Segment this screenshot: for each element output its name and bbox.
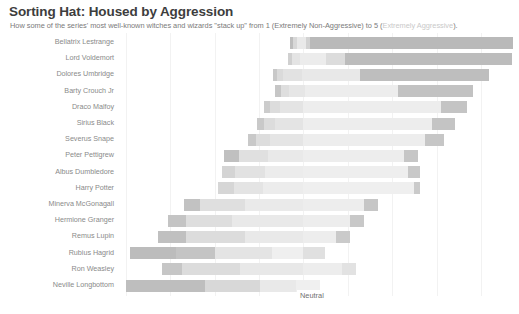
bar-segment-level-1[interactable] <box>222 166 235 178</box>
bar-segment-level-4[interactable] <box>303 134 425 146</box>
bar-segment-level-3[interactable] <box>289 85 305 97</box>
bar-segment-level-2[interactable] <box>281 85 289 97</box>
bar-segment-level-1[interactable] <box>184 199 200 211</box>
bar-segment-level-4[interactable] <box>303 199 364 211</box>
bar-segment-level-5[interactable] <box>408 166 420 178</box>
bar-segment-level-4[interactable] <box>305 85 398 97</box>
bar-segment-level-1[interactable] <box>130 247 176 259</box>
bar-segment-level-5[interactable] <box>360 69 489 81</box>
bar-segment-level-5[interactable] <box>404 150 418 162</box>
bar-segment-level-2[interactable] <box>234 182 263 194</box>
bar-segment-level-5[interactable] <box>350 215 364 227</box>
bar-stack[interactable] <box>0 85 519 97</box>
bar-segment-level-1[interactable] <box>257 118 264 130</box>
bar-stack[interactable] <box>0 263 519 275</box>
bar-segment-level-3[interactable] <box>245 199 303 211</box>
bar-stack[interactable] <box>0 280 519 292</box>
bar-row[interactable]: Bellatrix Lestrange <box>0 35 519 51</box>
bar-segment-level-4[interactable] <box>303 263 342 275</box>
bar-stack[interactable] <box>0 215 519 227</box>
bar-segment-level-4[interactable] <box>303 215 350 227</box>
bar-stack[interactable] <box>0 101 519 113</box>
bar-segment-level-2[interactable] <box>256 134 270 146</box>
bar-segment-level-4[interactable] <box>303 118 432 130</box>
bar-segment-level-3[interactable] <box>263 182 303 194</box>
bar-segment-level-3[interactable] <box>297 37 306 49</box>
bar-stack[interactable] <box>0 134 519 146</box>
bar-segment-level-4[interactable] <box>302 69 360 81</box>
bar-segment-level-2[interactable] <box>182 263 240 275</box>
bar-segment-level-2[interactable] <box>239 150 268 162</box>
bar-row[interactable]: Severus Snape <box>0 132 519 148</box>
bar-segment-level-2[interactable] <box>186 231 245 243</box>
bar-row[interactable]: Barty Crouch Jr <box>0 84 519 100</box>
bar-segment-level-5[interactable] <box>345 53 512 65</box>
bar-segment-level-5[interactable] <box>364 199 378 211</box>
bar-segment-level-1[interactable] <box>218 182 234 194</box>
bar-segment-level-4[interactable] <box>303 166 408 178</box>
bar-row[interactable]: Lord Voldemort <box>0 51 519 67</box>
bar-row[interactable]: Neville Longbottom <box>0 278 519 294</box>
bar-stack[interactable] <box>0 247 519 259</box>
bar-segment-level-4[interactable] <box>303 182 414 194</box>
bar-segment-level-4[interactable] <box>303 231 336 243</box>
bar-segment-level-5[interactable] <box>303 247 325 259</box>
bar-row[interactable]: Remus Lupin <box>0 229 519 245</box>
bar-segment-level-4[interactable] <box>272 247 303 259</box>
bar-segment-level-1[interactable] <box>168 215 186 227</box>
bar-row[interactable]: Sirius Black <box>0 116 519 132</box>
bar-segment-level-3[interactable] <box>268 150 303 162</box>
bar-stack[interactable] <box>0 166 519 178</box>
bar-stack[interactable] <box>0 69 519 81</box>
bar-segment-level-3[interactable] <box>245 231 303 243</box>
bar-segment-level-3[interactable] <box>270 134 303 146</box>
bar-segment-level-4[interactable] <box>303 150 404 162</box>
bar-stack[interactable] <box>0 182 519 194</box>
bar-row[interactable]: Hermione Granger <box>0 213 519 229</box>
bar-segment-level-3[interactable] <box>300 53 326 65</box>
bar-segment-level-3[interactable] <box>240 263 303 275</box>
bar-segment-level-2[interactable] <box>264 118 275 130</box>
bar-segment-level-5[interactable] <box>336 231 350 243</box>
bar-segment-level-5[interactable] <box>342 263 356 275</box>
bar-segment-level-2[interactable] <box>205 280 260 292</box>
bar-segment-level-1[interactable] <box>126 280 205 292</box>
bar-segment-level-5[interactable] <box>310 37 513 49</box>
bar-segment-level-3[interactable] <box>215 247 272 259</box>
bar-segment-level-3[interactable] <box>232 215 303 227</box>
bar-segment-level-4[interactable] <box>303 101 441 113</box>
bar-stack[interactable] <box>0 53 519 65</box>
bar-row[interactable]: Ron Weasley <box>0 262 519 278</box>
bar-row[interactable]: Harry Potter <box>0 181 519 197</box>
bar-row[interactable]: Albus Dumbledore <box>0 165 519 181</box>
bar-row[interactable]: Minerva McGonagall <box>0 197 519 213</box>
bar-stack[interactable] <box>0 231 519 243</box>
bar-segment-level-1[interactable] <box>248 134 256 146</box>
bar-segment-level-5[interactable] <box>414 182 420 194</box>
bar-segment-level-3[interactable] <box>275 118 303 130</box>
bar-segment-level-2[interactable] <box>186 215 232 227</box>
bar-segment-level-3[interactable] <box>280 101 303 113</box>
bar-stack[interactable] <box>0 199 519 211</box>
bar-segment-level-1[interactable] <box>224 150 239 162</box>
bar-segment-level-5[interactable] <box>432 118 455 130</box>
bar-row[interactable]: Rubius Hagrid <box>0 246 519 262</box>
bar-row[interactable]: Draco Malfoy <box>0 100 519 116</box>
bar-segment-level-1[interactable] <box>162 263 182 275</box>
bar-segment-level-4[interactable] <box>326 53 345 65</box>
bar-stack[interactable] <box>0 118 519 130</box>
bar-segment-level-2[interactable] <box>176 247 215 259</box>
bar-segment-level-1[interactable] <box>158 231 186 243</box>
bar-segment-level-3[interactable] <box>283 69 302 81</box>
bar-segment-level-2[interactable] <box>270 101 280 113</box>
bar-segment-level-3[interactable] <box>260 280 296 292</box>
bar-segment-level-5[interactable] <box>425 134 444 146</box>
bar-segment-level-3[interactable] <box>265 166 303 178</box>
bar-segment-level-2[interactable] <box>235 166 265 178</box>
bar-stack[interactable] <box>0 150 519 162</box>
bar-stack[interactable] <box>0 37 519 49</box>
bar-row[interactable]: Dolores Umbridge <box>0 67 519 83</box>
bar-segment-level-2[interactable] <box>292 53 300 65</box>
bar-row[interactable]: Peter Pettigrew <box>0 148 519 164</box>
bar-segment-level-5[interactable] <box>441 101 467 113</box>
